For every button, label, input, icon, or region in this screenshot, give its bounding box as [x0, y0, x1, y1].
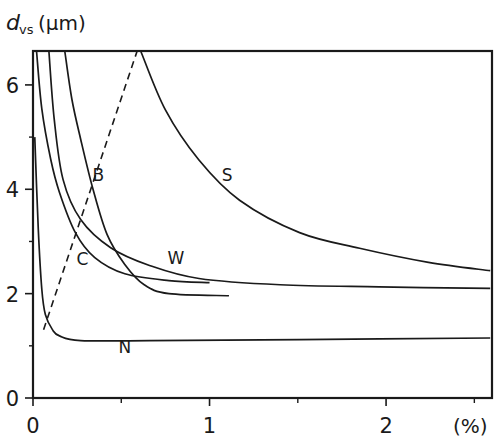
x-axis-title: (%) — [453, 414, 488, 438]
y-tick-label: 2 — [6, 283, 19, 307]
plot-frame — [33, 51, 492, 398]
curve-s — [141, 51, 491, 271]
series-label-s: S — [222, 165, 233, 185]
curve-boundary — [44, 51, 138, 330]
x-tick-label: 0 — [26, 414, 39, 438]
curve-b — [65, 51, 229, 296]
x-tick-label: 2 — [379, 414, 392, 438]
y-tick-label: 4 — [6, 178, 19, 202]
y-tick-label: 0 — [6, 387, 19, 411]
curve-w — [49, 51, 490, 288]
x-tick-label: 1 — [203, 414, 216, 438]
series-label-b: B — [92, 165, 104, 185]
series-label-n: N — [118, 337, 131, 357]
curves — [35, 51, 490, 341]
plot-border — [33, 51, 492, 398]
y-tick-label: 6 — [6, 74, 19, 98]
y-axis-title-sub: vs — [19, 22, 34, 37]
y-axis-title: d vs (µm) — [6, 10, 86, 37]
series-label-c: C — [76, 249, 88, 269]
y-axis-title-unit: (µm) — [38, 11, 86, 35]
series-label-w: W — [168, 248, 185, 268]
chart: d vs (µm) 0246012 CWBSN (%) — [0, 0, 497, 448]
